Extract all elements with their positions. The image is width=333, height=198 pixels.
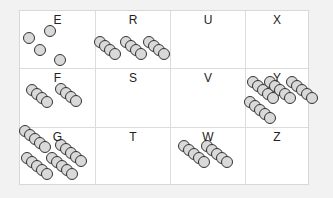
counter-circle	[110, 49, 121, 60]
counter-circle	[76, 156, 87, 167]
counter-circle	[67, 169, 78, 180]
cell-label: R	[96, 13, 170, 27]
counter-circle	[199, 157, 210, 168]
cell-label: E	[20, 13, 95, 27]
counter-circle	[136, 49, 147, 60]
cell-label: S	[96, 71, 170, 85]
counter-circle	[222, 157, 233, 168]
counter-circle	[285, 93, 296, 104]
counter-circle	[42, 97, 53, 108]
counter-circle	[42, 169, 53, 180]
counter-circle	[24, 33, 35, 44]
cell-label: V	[171, 71, 245, 85]
counter-circle	[265, 113, 276, 124]
counter-circle	[159, 49, 170, 60]
cell-label: G	[20, 130, 95, 144]
counter-circle	[45, 26, 56, 37]
circles-layer	[0, 0, 333, 198]
counter-circle	[307, 93, 318, 104]
counter-circle	[35, 45, 46, 56]
cell-label: Z	[246, 130, 308, 144]
cell-label: W	[171, 130, 245, 144]
cell-label: X	[246, 13, 308, 27]
counter-circle	[55, 55, 66, 66]
cell-label: F	[20, 71, 95, 85]
cell-label: T	[96, 130, 170, 144]
counter-circle	[71, 96, 82, 107]
cell-label: Y	[246, 71, 308, 85]
cell-label: U	[171, 13, 245, 27]
